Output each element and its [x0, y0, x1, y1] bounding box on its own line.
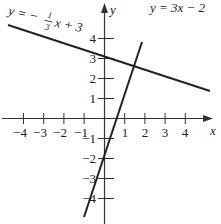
- svg-text:−2: −2: [53, 125, 67, 140]
- x-tick-labels: −4 −3 −2 −1 1 2 3 4: [13, 125, 189, 140]
- svg-text:1: 1: [122, 125, 129, 140]
- equation-label-line1: y = − 1 3 x + 3: [4, 1, 85, 39]
- line-y-neg-third-x-plus-3: [8, 25, 210, 91]
- axes: [2, 10, 207, 224]
- svg-text:x + 3: x + 3: [53, 15, 85, 36]
- svg-text:3: 3: [43, 21, 51, 32]
- svg-text:−3: −3: [33, 125, 47, 140]
- y-axis-arrow-icon: [101, 3, 108, 13]
- svg-text:1: 1: [90, 91, 97, 106]
- svg-text:−2: −2: [82, 151, 96, 166]
- svg-text:4: 4: [90, 31, 97, 46]
- x-axis-label: x: [209, 123, 216, 138]
- x-axis-arrow-icon: [203, 115, 213, 122]
- svg-text:−3: −3: [82, 171, 96, 186]
- svg-text:−1: −1: [82, 131, 96, 146]
- svg-text:y = −: y = −: [5, 2, 39, 23]
- line-y-3x-minus-2: [84, 42, 142, 217]
- svg-text:3: 3: [162, 125, 169, 140]
- svg-text:−4: −4: [13, 125, 27, 140]
- svg-text:4: 4: [182, 125, 189, 140]
- equation-label-line2: y = 3x − 2: [148, 0, 206, 15]
- y-axis-label: y: [108, 2, 116, 17]
- coordinate-plane: −4 −3 −2 −1 1 2 3 4 4 3 2 1 −1 −2 −3 −4 …: [0, 0, 221, 224]
- svg-text:2: 2: [90, 71, 97, 86]
- svg-text:1: 1: [47, 10, 53, 21]
- svg-text:2: 2: [142, 125, 149, 140]
